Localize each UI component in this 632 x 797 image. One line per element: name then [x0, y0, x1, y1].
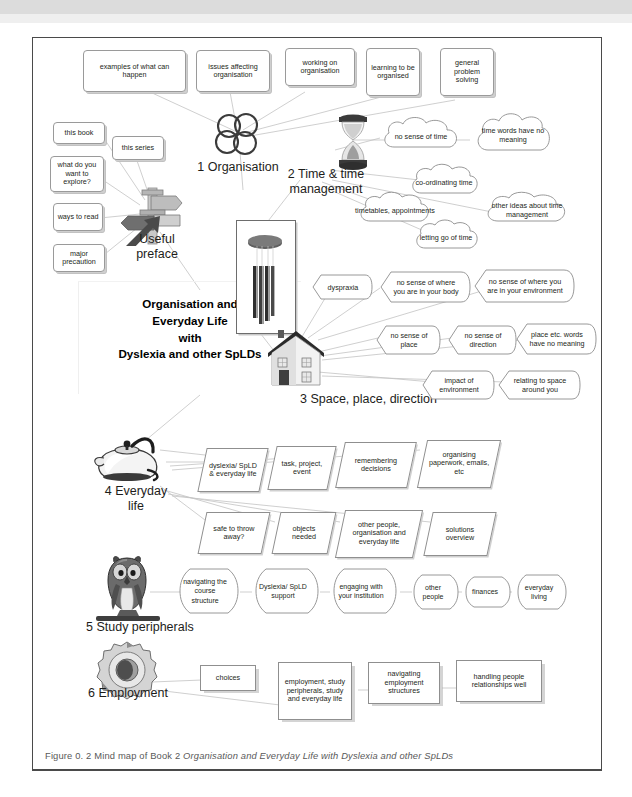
branch-label-preface-line-2: preface — [112, 247, 202, 262]
node-everyday-1[interactable]: dyslexia/ SpLD & everyday life — [197, 448, 268, 492]
node-study-5[interactable]: finances — [464, 576, 514, 608]
node-preface-4[interactable]: ways to read — [53, 203, 103, 231]
house-icon — [262, 327, 332, 389]
node-everyday-8[interactable]: solutions overview — [423, 512, 496, 556]
node-organisation-4[interactable]: learning to be organised — [366, 48, 420, 96]
node-everyday-6[interactable]: objects needed — [272, 512, 337, 554]
page-scan-edge — [0, 0, 632, 14]
page-scan-edge-2 — [0, 14, 632, 23]
node-study-3[interactable]: engaging with your institution — [332, 568, 402, 614]
node-everyday-8-label: solutions overview — [429, 526, 491, 543]
node-space-3-label: no sense of where you are in your enviro… — [474, 269, 576, 303]
node-employment-2[interactable]: employment, study peripherals, study and… — [278, 662, 352, 720]
node-employment-1[interactable]: choices — [200, 665, 256, 691]
node-organisation-2[interactable]: issues affecting organisation — [196, 50, 270, 92]
node-study-4-label: other people — [412, 574, 462, 610]
node-employment-4[interactable]: handling people relationships well — [456, 660, 542, 702]
branch-label-everyday: 4 Everyday life — [88, 484, 184, 514]
node-employment-3[interactable]: navigating employment structures — [368, 662, 440, 704]
node-organisation-1[interactable]: examples of what can happen — [83, 50, 186, 92]
node-space-2[interactable]: no sense of where you are in your body — [380, 271, 472, 303]
node-space-6-label: place etc. words have no meaning — [516, 323, 598, 355]
node-time-1-label: no sense of time — [378, 115, 464, 157]
node-time-2[interactable]: time words have no meaning — [473, 110, 553, 160]
node-time-1[interactable]: no sense of time — [378, 115, 464, 157]
node-space-1-label: dyspraxia — [312, 274, 374, 300]
node-study-1-label: navigating the course structure — [178, 568, 244, 614]
node-space-3[interactable]: no sense of where you are in your enviro… — [474, 269, 576, 303]
node-everyday-7-label: other people, organisation and everyday … — [341, 521, 417, 546]
node-space-4[interactable]: no sense of place — [376, 325, 442, 355]
node-everyday-7[interactable]: other people, organisation and everyday … — [335, 510, 423, 558]
node-study-1[interactable]: navigating the course structure — [178, 568, 244, 614]
node-study-2[interactable]: Dyslexia/ SpLD support — [254, 568, 324, 614]
node-space-7-label: impact of environment — [422, 370, 496, 400]
node-everyday-5-label: safe to throw away? — [203, 525, 265, 542]
node-study-6-label: everyday living — [516, 574, 570, 610]
branch-label-preface-line-1: Useful — [112, 232, 202, 247]
figure-caption: Figure 0. 2 Mind map of Book 2 Organisat… — [45, 750, 590, 761]
node-space-1[interactable]: dyspraxia — [312, 274, 374, 300]
node-everyday-3[interactable]: remembering decisions — [335, 442, 417, 488]
node-preface-3[interactable]: what do you want to explore? — [50, 156, 104, 192]
wind-chime-picture — [236, 220, 296, 334]
branch-label-everyday-line-2: life — [88, 499, 184, 514]
caption-rule — [32, 769, 602, 771]
node-space-5[interactable]: no sense of direction — [448, 325, 518, 355]
node-space-4-label: no sense of place — [376, 325, 442, 355]
branch-label-everyday-line-1: 4 Everyday — [88, 484, 184, 499]
node-preface-2[interactable]: this series — [112, 136, 164, 160]
node-organisation-5[interactable]: general problem solving — [440, 48, 494, 96]
node-study-6[interactable]: everyday living — [516, 574, 570, 610]
node-everyday-4[interactable]: organising paperwork, emails, etc — [417, 440, 501, 488]
node-study-5-label: finances — [464, 576, 514, 608]
node-everyday-2-label: task, project, event — [273, 460, 331, 477]
node-time-5-label: other ideas about time management — [482, 190, 572, 230]
figure-caption-title: Organisation and Everyday Life with Dysl… — [183, 750, 453, 761]
branch-label-preface: Useful preface — [112, 232, 202, 262]
node-preface-1[interactable]: this book — [53, 122, 105, 144]
centre-title-line-4: Dyslexia and other SpLDs — [95, 346, 285, 363]
figure-caption-prefix: Figure 0. 2 Mind map of Book 2 — [45, 750, 183, 761]
owl-icon — [96, 550, 162, 624]
node-space-5-label: no sense of direction — [448, 325, 518, 355]
node-time-6-label: letting go of time — [412, 218, 480, 256]
node-organisation-3[interactable]: working on organisation — [285, 48, 355, 86]
node-time-5[interactable]: other ideas about time management — [482, 190, 572, 230]
node-study-3-label: engaging with your institution — [332, 568, 402, 614]
node-everyday-3-label: remembering decisions — [341, 457, 411, 474]
node-everyday-6-label: objects needed — [277, 525, 331, 542]
node-everyday-5[interactable]: safe to throw away? — [198, 512, 271, 554]
branch-label-time-line-1: 2 Time & time — [268, 167, 384, 182]
hourglass-icon — [336, 112, 370, 172]
node-time-2-label: time words have no meaning — [473, 110, 553, 160]
node-everyday-1-label: dyslexia/ SpLD & everyday life — [203, 462, 263, 479]
figure-page: Organisation and Everyday Life with Dysl… — [0, 0, 632, 797]
node-study-2-label: Dyslexia/ SpLD support — [254, 568, 324, 614]
kettle-icon — [92, 422, 164, 482]
node-space-8[interactable]: relating to space around you — [498, 370, 582, 400]
node-study-4[interactable]: other people — [412, 574, 462, 610]
node-space-8-label: relating to space around you — [498, 370, 582, 400]
node-space-2-label: no sense of where you are in your body — [380, 271, 472, 303]
node-space-7[interactable]: impact of environment — [422, 370, 496, 400]
node-time-6[interactable]: letting go of time — [412, 218, 480, 256]
node-everyday-2[interactable]: task, project, event — [267, 446, 336, 490]
overlapping-circles-icon — [213, 112, 265, 158]
node-space-6[interactable]: place etc. words have no meaning — [516, 323, 598, 355]
node-everyday-4-label: organising paperwork, emails, etc — [423, 451, 495, 476]
node-preface-5[interactable]: major precaution — [53, 244, 105, 272]
branch-label-study: 5 Study peripherals — [86, 620, 236, 635]
